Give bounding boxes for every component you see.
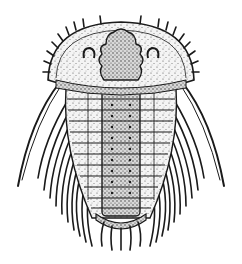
pygidium	[96, 214, 146, 250]
trilobite-drawing	[0, 0, 242, 264]
trilobite-illustration	[0, 0, 242, 264]
